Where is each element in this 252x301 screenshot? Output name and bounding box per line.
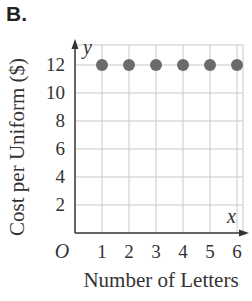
data-point [123,59,135,71]
x-axis-arrow-icon [239,230,249,237]
y-tick-label: 12 [46,54,65,75]
y-tick-label: 8 [56,110,66,131]
y-axis-arrow-icon [72,39,79,49]
x-tick-label: 4 [178,241,188,262]
x-tick-label: 2 [124,241,134,262]
origin-label: O [55,240,69,262]
x-tick-label: 5 [205,241,215,262]
y-axis-label: Cost per Uniform ($) [5,58,29,236]
data-point [231,59,243,71]
x-axis-variable: x [226,205,236,227]
y-tick-label: 2 [56,194,66,215]
y-tick-label: 4 [56,166,66,187]
scatter-chart: yx12345624681012ONumber of LettersCost p… [0,0,252,301]
y-axis-variable: y [81,36,92,59]
y-tick-label: 10 [46,82,65,103]
x-axis-label: Number of Letters [83,268,238,292]
x-tick-label: 3 [151,241,161,262]
data-point [150,59,162,71]
x-tick-label: 1 [97,241,107,262]
x-tick-label: 6 [232,241,242,262]
y-tick-label: 6 [56,138,66,159]
data-point [177,59,189,71]
data-point [204,59,216,71]
data-point [96,59,108,71]
